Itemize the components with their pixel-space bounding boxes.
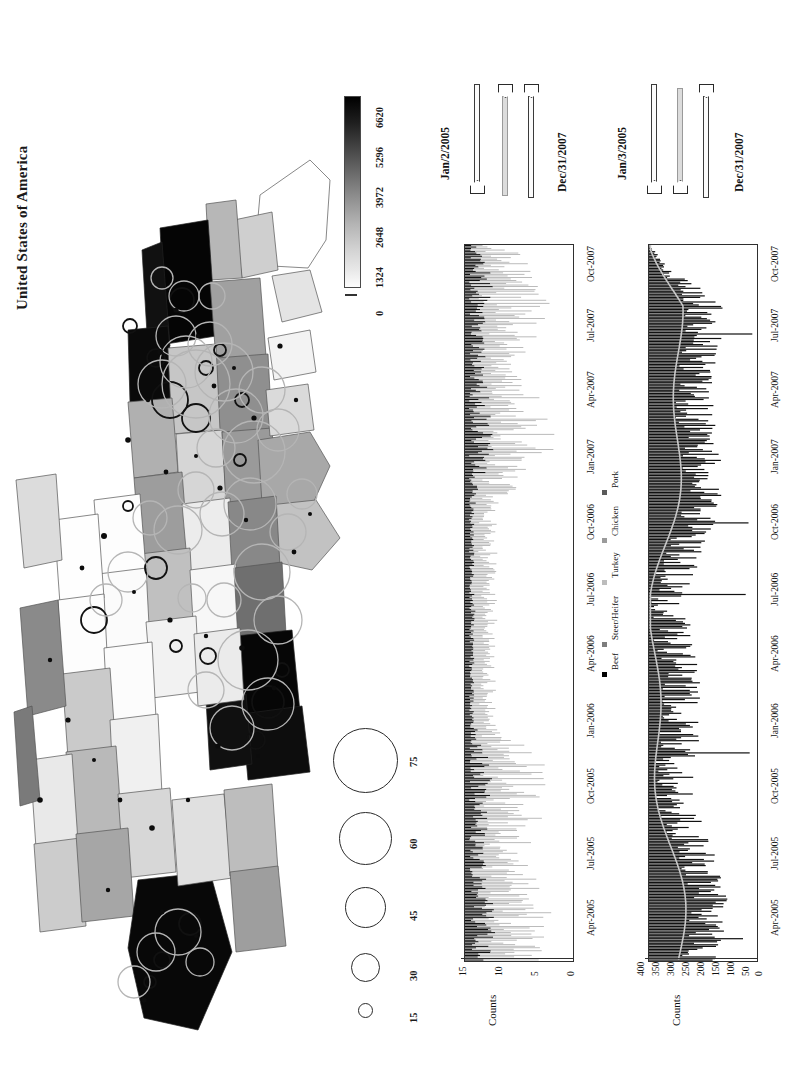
chart-top-panel[interactable]: 15 10 5 0 Counts Apr-2005 Jul-2005 Oct-2… <box>428 236 600 1036</box>
chart-top-xtick-1: Jul-2005 <box>586 837 596 870</box>
chart-bottom-xtick-8: Apr-2007 <box>770 371 780 408</box>
bubble-legend-circle-75 <box>333 728 398 793</box>
chart-top-xtick-8: Apr-2007 <box>586 371 596 408</box>
chart-top-plot-area[interactable] <box>464 244 574 962</box>
bubble-legend-circle-60 <box>339 812 392 865</box>
bubble-legend-circle-45 <box>345 887 386 928</box>
chart-bottom-ytick-200: 200 <box>696 962 706 976</box>
chart-bottom-xtick-6: Oct-2006 <box>770 504 780 540</box>
slider-track-2c[interactable] <box>703 96 709 198</box>
bubble-legend-label-75: 75 <box>408 757 419 768</box>
chart-top-xtick-9: Jul-2007 <box>586 309 596 342</box>
bubble-legend-label-15: 15 <box>408 1013 419 1024</box>
chart-bottom-xtick-1: Jul-2005 <box>770 837 780 870</box>
chart-top-xtick-0: Apr-2005 <box>586 899 596 936</box>
slider-track-1a[interactable] <box>474 84 480 184</box>
legend-swatch-steer-heifer <box>602 642 607 647</box>
chart-bottom-ytick-300: 300 <box>666 962 676 976</box>
colorbar-label-3972: 3972 <box>374 187 385 208</box>
right-column: Jan/2/2005 Dec/31/2007 Jan/3/2005 Dec/31… <box>420 0 787 1077</box>
usa-choropleth-map[interactable] <box>10 100 350 1040</box>
chart-bottom-ytick-100: 100 <box>726 962 736 976</box>
choropleth-colorbar: 0 1324 2648 3972 5296 6620 <box>326 78 406 328</box>
chart-bottom-xtick-10: Oct-2007 <box>770 246 780 282</box>
slider-end-label-top: Dec/31/2007 <box>556 133 568 192</box>
chart-top-xtick-10: Oct-2007 <box>586 246 596 282</box>
chart-bottom-ytick-350: 350 <box>651 962 661 976</box>
legend-swatch-chicken <box>602 538 607 543</box>
chart-bottom-panel[interactable]: 400 350 300 250 200 150 100 50 0 Counts … <box>612 236 784 1036</box>
chart-bottom-ytick-50: 50 <box>741 967 751 977</box>
chart-top-ytick-15: 15 <box>458 967 468 977</box>
slider-thumb-2a[interactable] <box>647 180 662 194</box>
chart-bottom-xtick-9: Jul-2007 <box>770 309 780 342</box>
slider-start-label-top: Jan/2/2005 <box>439 127 451 180</box>
slider-end-label-bottom: Dec/31/2007 <box>733 133 745 192</box>
chart-bottom-ytick-250: 250 <box>681 962 691 976</box>
colorbar-gradient <box>344 96 361 288</box>
colorbar-label-2648: 2648 <box>374 227 385 248</box>
legend-swatch-turkey <box>602 580 607 585</box>
chart-bottom-ylabel: Counts <box>670 995 682 1026</box>
chart-top-xtick-7: Jan-2007 <box>586 439 596 474</box>
chart-bottom-xtick-2: Oct-2005 <box>770 768 780 804</box>
chart-bottom-xtick-7: Jan-2007 <box>770 439 780 474</box>
legend-swatch-beef <box>602 672 607 677</box>
slider-thumb-1c[interactable] <box>524 84 539 98</box>
slider-track-1b[interactable] <box>502 96 508 196</box>
slider-thumb-1b[interactable] <box>498 84 513 98</box>
chart-bottom-ytick-150: 150 <box>711 962 721 976</box>
colorbar-label-1324: 1324 <box>374 267 385 288</box>
slider-thumb-2c[interactable] <box>699 84 714 98</box>
bubble-legend-label-30: 30 <box>408 971 419 982</box>
chart-top-xtick-4: Apr-2006 <box>586 635 596 672</box>
chart-top-xtick-6: Oct-2006 <box>586 504 596 540</box>
chart-top-xtick-3: Jan-2006 <box>586 703 596 738</box>
chart-bottom-xtick-4: Apr-2006 <box>770 635 780 672</box>
slider-track-2a[interactable] <box>651 84 657 184</box>
colorbar-zero-tick <box>345 294 357 296</box>
chart-top-ytick-10: 10 <box>494 967 504 977</box>
chart-top-ytick-5: 5 <box>530 971 540 976</box>
chart-bottom-ytick-0: 0 <box>754 971 764 976</box>
bubble-legend-circle-30 <box>351 953 380 982</box>
bubble-legend-label-60: 60 <box>408 839 419 850</box>
bubble-legend-label-45: 45 <box>408 911 419 922</box>
slider-track-1c[interactable] <box>528 96 534 198</box>
chart-bottom-xtick-0: Apr-2005 <box>770 899 780 936</box>
date-range-slider-top[interactable]: Jan/2/2005 Dec/31/2007 <box>425 62 593 232</box>
colorbar-label-6620: 6620 <box>374 107 385 128</box>
chart-top-xtick-2: Oct-2005 <box>586 768 596 804</box>
chart-top-xtick-5: Jul-2006 <box>586 573 596 606</box>
chart-top-yaxis-line <box>461 958 573 959</box>
chart-bottom-bars <box>649 245 757 961</box>
bubble-size-legend: 15 30 45 60 75 <box>330 735 420 1035</box>
colorbar-label-5296: 5296 <box>374 147 385 168</box>
slider-track-2b[interactable] <box>677 88 683 184</box>
chart-bottom-ytick-400: 400 <box>636 962 646 976</box>
bubble-legend-circle-15 <box>358 1003 373 1018</box>
chart-top-ylabel: Counts <box>486 995 498 1026</box>
colorbar-label-0: 0 <box>374 311 385 316</box>
chart-top-ytick-0: 0 <box>566 971 576 976</box>
chart-bottom-xtick-3: Jan-2006 <box>770 703 780 738</box>
slider-thumb-1a[interactable] <box>470 180 485 194</box>
map-panel: United States of America <box>0 0 420 1077</box>
legend-swatch-pork <box>602 490 607 495</box>
map-state-polygons <box>14 160 340 1030</box>
slider-thumb-2b[interactable] <box>673 180 688 194</box>
date-range-slider-bottom[interactable]: Jan/3/2005 Dec/31/2007 <box>608 62 776 232</box>
slider-start-label-bottom: Jan/3/2005 <box>616 127 628 180</box>
chart-top-bars <box>465 245 573 961</box>
chart-bottom-xtick-5: Jul-2006 <box>770 573 780 606</box>
chart-bottom-plot-area[interactable] <box>648 244 758 962</box>
chart-bottom-yaxis-line <box>645 958 757 959</box>
